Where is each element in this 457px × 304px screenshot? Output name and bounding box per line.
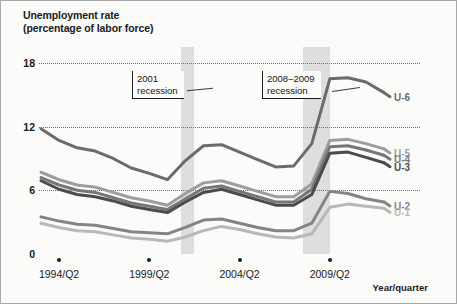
- series-lines-svg: [39, 47, 420, 254]
- x-tick-dot-1994/Q2: [57, 258, 61, 262]
- series-end-marker-U-1: [384, 208, 390, 212]
- series-line-U-4: [41, 146, 384, 210]
- x-tick-label-1999/Q2: 1999/Q2: [129, 268, 169, 280]
- series-end-marker-U-5: [384, 149, 390, 153]
- x-tick-dot-2004/Q2: [238, 258, 242, 262]
- y-axis-tick-labels: 061218: [17, 47, 35, 254]
- series-end-marker-U-6: [384, 93, 390, 97]
- x-tick-dot-2009/Q2: [328, 258, 332, 262]
- series-end-marker-U-4: [384, 155, 390, 159]
- x-tick-label-1994/Q2: 1994/Q2: [39, 268, 79, 280]
- x-axis-title: Year/quarter: [373, 282, 428, 293]
- y-tick-label-6: 6: [29, 184, 35, 196]
- y-tick-label-0: 0: [29, 248, 35, 260]
- annotation-recession-2001: 2001 recession: [132, 71, 184, 99]
- unemployment-rate-chart-figure: Unemployment rate (percentage of labor f…: [0, 0, 457, 304]
- x-tick-label-2004/Q2: 2004/Q2: [219, 268, 259, 280]
- annotation-line-2: recession: [137, 85, 178, 97]
- series-label-U-3: U-3: [394, 161, 410, 172]
- annotation-line-2: recession: [267, 85, 315, 97]
- y-tick-label-12: 12: [23, 121, 35, 133]
- annotation-recession-2008-2009: 2008–2009 recession: [262, 71, 321, 99]
- title-line-2: (percentage of labor force): [23, 22, 153, 35]
- series-line-U-1: [41, 204, 384, 241]
- x-tick-dot-1999/Q2: [147, 258, 151, 262]
- plot-area: U-6U-5U-4U-3U-2U-1: [39, 47, 420, 254]
- series-end-marker-U-3: [384, 163, 390, 167]
- x-tick-label-2009/Q2: 2009/Q2: [310, 268, 350, 280]
- series-label-U-6: U-6: [394, 91, 410, 102]
- y-tick-label-18: 18: [23, 57, 35, 69]
- series-label-U-1: U-1: [394, 207, 410, 218]
- series-line-U-6: [41, 78, 384, 180]
- annotation-line-1: 2001: [137, 73, 178, 85]
- series-end-marker-U-2: [384, 202, 390, 206]
- title-line-1: Unemployment rate: [23, 9, 153, 22]
- page-title: Unemployment rate (percentage of labor f…: [23, 9, 153, 35]
- annotation-line-1: 2008–2009: [267, 73, 315, 85]
